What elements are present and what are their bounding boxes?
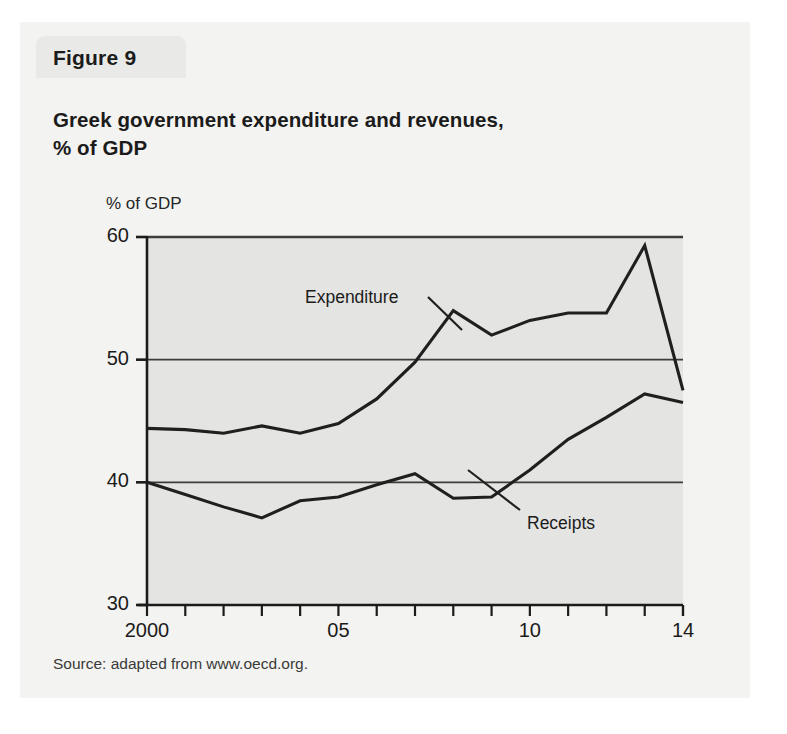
y-axis-tick-label-50: 50 <box>89 347 129 370</box>
y-axis-tick-label-30: 30 <box>89 592 129 615</box>
x-axis-tick-label-2000: 2000 <box>107 619 187 642</box>
source-divider <box>36 641 736 642</box>
x-axis-tick-label-2005: 05 <box>298 619 378 642</box>
series-annotation-receipts: Receipts <box>527 513 595 534</box>
figure-page: Figure 9 Greek government expenditure an… <box>0 0 787 734</box>
x-axis-tick-label-2010: 10 <box>490 619 570 642</box>
y-axis-tick-label-60: 60 <box>89 224 129 247</box>
source-note: Source: adapted from www.oecd.org. <box>53 655 308 673</box>
series-annotation-expenditure: Expenditure <box>305 287 398 308</box>
x-axis-tick-label-2014: 14 <box>643 619 723 642</box>
y-axis-tick-label-40: 40 <box>89 469 129 492</box>
